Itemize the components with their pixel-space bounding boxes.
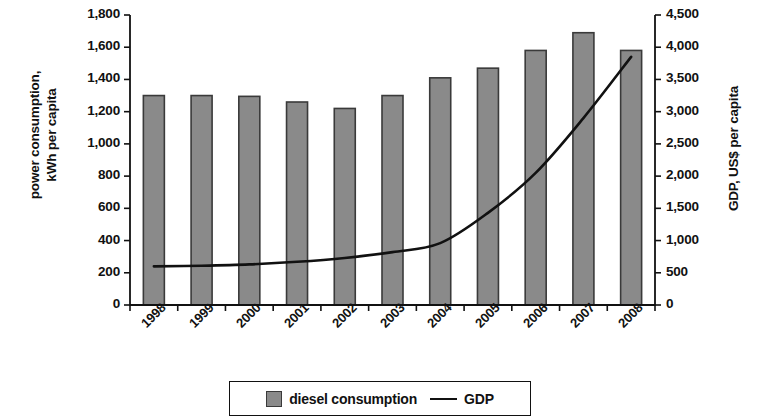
left-tick-400: 400 <box>58 232 120 247</box>
left-tick-1600: 1,600 <box>58 38 120 53</box>
left-tick-600: 600 <box>58 199 120 214</box>
right-tick-1000: 1,000 <box>666 232 728 247</box>
right-tick-1500: 1,500 <box>666 199 728 214</box>
left-tick-200: 200 <box>58 264 120 279</box>
bar-2000 <box>239 96 260 305</box>
bar-2003 <box>382 96 403 305</box>
chart-container: power consumption, kWh per capita GDP, U… <box>0 0 761 420</box>
legend-item-gdp: GDP <box>430 391 494 407</box>
left-tick-1200: 1,200 <box>58 103 120 118</box>
legend-line-icon <box>430 398 457 400</box>
legend-square-icon <box>266 391 282 407</box>
bar-2006 <box>525 50 546 305</box>
left-tick-1800: 1,800 <box>58 6 120 21</box>
bar-2001 <box>287 102 308 305</box>
left-tick-800: 800 <box>58 167 120 182</box>
bar-2002 <box>334 108 355 305</box>
left-tick-1000: 1,000 <box>58 135 120 150</box>
bar-1999 <box>191 96 212 305</box>
bar-1998 <box>143 96 164 305</box>
right-tick-0: 0 <box>666 296 728 311</box>
right-tick-3000: 3,000 <box>666 103 728 118</box>
right-tick-2500: 2,500 <box>666 135 728 150</box>
bar-2008 <box>621 50 642 305</box>
right-tick-2000: 2,000 <box>666 167 728 182</box>
bar-2004 <box>430 78 451 305</box>
legend-item-diesel-consumption: diesel consumption <box>266 391 417 407</box>
left-tick-1400: 1,400 <box>58 70 120 85</box>
right-tick-500: 500 <box>666 264 728 279</box>
bar-2005 <box>477 68 498 305</box>
right-tick-4500: 4,500 <box>666 6 728 21</box>
right-tick-3500: 3,500 <box>666 70 728 85</box>
right-tick-4000: 4,000 <box>666 38 728 53</box>
chart-legend: diesel consumption GDP <box>229 381 531 416</box>
left-tick-0: 0 <box>58 296 120 311</box>
bar-2007 <box>573 33 594 305</box>
legend-label-gdp: GDP <box>464 391 494 407</box>
legend-label-diesel-consumption: diesel consumption <box>289 391 417 407</box>
